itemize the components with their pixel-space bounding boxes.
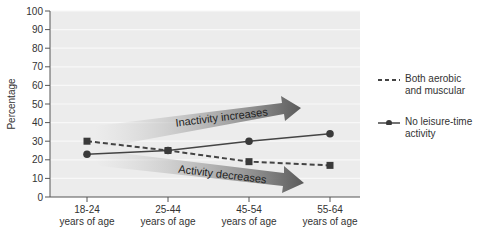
y-tick-label: 100: [26, 6, 43, 17]
y-axis-label: Percentage: [6, 78, 17, 130]
legend-label-line1: No leisure-time: [405, 116, 478, 128]
dashed-line-swatch-icon: [378, 77, 400, 83]
legend-label-line2: and muscular: [405, 85, 478, 97]
x-tick-label: 25-44: [155, 204, 181, 215]
y-tick-label: 90: [32, 24, 44, 35]
y-tick-label: 30: [32, 136, 44, 147]
solid-line-circle-swatch-icon: [378, 119, 400, 125]
y-tick-label: 80: [32, 43, 44, 54]
y-tick-label: 0: [37, 192, 43, 203]
x-tick-label: 18-24: [74, 204, 100, 215]
x-tick-label: years of age: [59, 216, 114, 227]
circle-marker-icon: [164, 147, 172, 155]
y-tick-label: 20: [32, 154, 44, 165]
circle-marker-icon: [245, 137, 253, 145]
circle-marker-icon: [326, 130, 334, 138]
square-marker-icon: [327, 162, 334, 169]
x-axis: 18-24years of age25-44years of age45-54y…: [50, 197, 360, 227]
square-marker-icon: [246, 158, 253, 165]
square-marker-icon: [84, 138, 91, 145]
legend-label-line1: Both aerobic: [405, 73, 478, 85]
x-tick-label: 45-54: [236, 204, 262, 215]
x-tick-label: years of age: [302, 216, 357, 227]
x-tick-label: 55-64: [317, 204, 343, 215]
circle-marker-icon: [83, 150, 91, 158]
y-axis: 0102030405060708090100: [26, 6, 50, 203]
x-tick-label: years of age: [140, 216, 195, 227]
y-tick-label: 50: [32, 99, 44, 110]
legend-label-line2: activity: [405, 128, 478, 140]
y-tick-label: 70: [32, 61, 44, 72]
y-tick-label: 10: [32, 173, 44, 184]
x-tick-label: years of age: [221, 216, 276, 227]
y-tick-label: 60: [32, 80, 44, 91]
y-tick-label: 40: [32, 117, 44, 128]
